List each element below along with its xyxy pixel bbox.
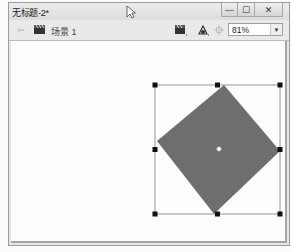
- handle-top-middle: [215, 83, 220, 88]
- clapboard-edit-icon[interactable]: [175, 24, 188, 36]
- window-title: 无标题-2*: [12, 6, 49, 19]
- zoom-select[interactable]: 81% ▼: [228, 23, 283, 36]
- chevron-down-icon[interactable]: ▼: [270, 24, 282, 35]
- handle-bottom-left: [153, 212, 158, 217]
- mouse-cursor-icon: [126, 5, 136, 19]
- handle-bottom-middle: [215, 212, 220, 217]
- zoom-value: 81%: [232, 25, 249, 35]
- handle-middle-left: [153, 147, 158, 152]
- minimize-button[interactable]: —: [221, 3, 238, 17]
- handle-top-right: [278, 83, 283, 88]
- arrow-left-icon[interactable]: ⇦: [17, 25, 25, 35]
- symbol-edit-icon[interactable]: [197, 24, 210, 36]
- handle-top-left: [153, 83, 158, 88]
- edit-bar: ⇦ 场景 1 81% ▼: [9, 20, 289, 41]
- clapboard-icon: [34, 25, 45, 34]
- handle-middle-right: [278, 147, 283, 152]
- handle-bottom-right: [278, 212, 283, 217]
- stage-canvas[interactable]: [11, 41, 287, 243]
- window-controls: — ☐ ✕: [221, 3, 283, 18]
- document-window: 无标题-2* — ☐ ✕ ⇦ 场景 1: [8, 2, 290, 246]
- title-bar[interactable]: 无标题-2* — ☐ ✕: [9, 3, 289, 20]
- maximize-button[interactable]: ☐: [238, 3, 255, 17]
- center-stage-icon[interactable]: [213, 24, 226, 36]
- transform-point[interactable]: [217, 147, 222, 152]
- close-button[interactable]: ✕: [255, 3, 283, 17]
- scene-breadcrumb[interactable]: 场景 1: [51, 25, 77, 38]
